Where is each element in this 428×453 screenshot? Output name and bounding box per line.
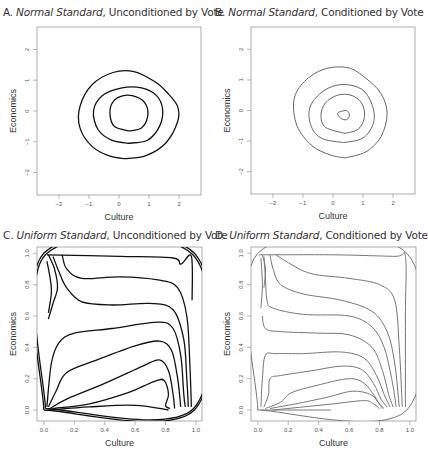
x-tick-label: 0 (117, 201, 121, 207)
y-tick-label: 0.2 (24, 374, 30, 383)
panel-d: 0.00.20.40.60.81.00.00.20.40.60.81.0Cult… (222, 234, 423, 448)
x-tick-label: −1 (86, 201, 94, 207)
x-tick-label: 2 (177, 201, 181, 207)
panel-b: −2−1012−2−1012CultureEconomics (222, 27, 415, 221)
y-tick-label: 2 (238, 47, 244, 51)
contour-line (53, 379, 170, 408)
contour-line (276, 255, 402, 407)
y-tick-label: −1 (238, 137, 244, 145)
x-tick-label: 0.0 (254, 427, 263, 433)
contour-line (259, 252, 406, 407)
panel-c-y-axis-label: Economics (8, 311, 18, 356)
contour-line (53, 256, 188, 407)
panel-b-frame (251, 27, 415, 194)
x-tick-label: 0 (331, 200, 335, 206)
panel-a-y-axis-label: Economics (8, 88, 18, 133)
panel-d-x-axis-label: Culture (319, 438, 348, 448)
x-tick-label: 0.2 (70, 427, 79, 433)
contour-line (337, 110, 349, 119)
y-tick-label: 0 (238, 108, 244, 112)
x-tick-label: 0.6 (345, 427, 354, 433)
x-tick-label: 1 (361, 200, 365, 206)
x-tick-label: 0.8 (161, 427, 170, 433)
y-tick-label: 0.6 (238, 311, 244, 320)
panel-a-x-axis-label: Culture (104, 212, 133, 222)
contour-line (265, 379, 384, 409)
panel-a-contours (78, 71, 179, 159)
y-tick-label: 0.4 (238, 342, 244, 351)
panel-d-y-axis-label: Economics (222, 311, 232, 356)
y-tick-label: 0.6 (24, 311, 30, 320)
x-tick-label: 1.0 (406, 427, 415, 433)
panel-c-x-axis-label: Culture (105, 438, 134, 448)
x-tick-label: −1 (300, 200, 308, 206)
y-tick-label: −2 (238, 168, 244, 176)
y-tick-label: 0.0 (24, 405, 30, 414)
contour-line (47, 261, 52, 313)
y-tick-label: −2 (24, 168, 30, 176)
panel-c: 0.00.20.40.60.81.00.00.20.40.60.81.0Cult… (8, 234, 213, 448)
contour-line (247, 234, 423, 422)
contour-line (110, 95, 148, 131)
x-tick-label: 0.6 (131, 427, 140, 433)
y-tick-label: 0.8 (238, 280, 244, 289)
contour-line (270, 391, 383, 408)
panel-b-x-axis-label: Culture (318, 211, 347, 221)
x-tick-label: −2 (270, 200, 278, 206)
y-tick-label: 1 (24, 78, 30, 82)
x-tick-label: 1 (147, 201, 151, 207)
y-tick-label: 1.0 (24, 248, 30, 257)
contour-line (261, 258, 263, 308)
y-tick-label: 0.4 (24, 342, 30, 351)
x-tick-label: 0.4 (315, 427, 324, 433)
y-tick-label: −1 (24, 138, 30, 146)
contour-line (47, 322, 185, 407)
y-tick-label: 0.8 (24, 280, 30, 289)
panel-d-frame (251, 247, 416, 421)
contour-line (293, 67, 387, 158)
y-tick-label: 0 (24, 109, 30, 113)
contour-line (34, 236, 211, 420)
contour-line (262, 316, 393, 407)
contour-line (33, 234, 214, 422)
contour-line (50, 360, 175, 409)
x-tick-label: 0.0 (40, 427, 49, 433)
panel-b-y-axis-label: Economics (222, 88, 232, 133)
x-tick-label: 0.2 (284, 427, 293, 433)
contour-line (47, 255, 193, 300)
x-tick-label: 1.0 (192, 427, 201, 433)
panel-a-frame (37, 27, 201, 195)
x-tick-label: −2 (56, 201, 64, 207)
panel-a: −2−1012−2−1012CultureEconomics (8, 27, 201, 222)
y-tick-label: 1.0 (238, 248, 244, 257)
y-tick-label: 0.0 (238, 405, 244, 414)
x-tick-label: 2 (391, 200, 395, 206)
panel-d-contours (247, 234, 423, 422)
contour-line (321, 94, 365, 133)
panel-c-contours (33, 234, 214, 422)
y-tick-label: 2 (24, 47, 30, 51)
y-tick-label: 0.2 (238, 374, 244, 383)
y-tick-label: 1 (238, 78, 244, 82)
panel-b-contours (293, 67, 387, 158)
x-tick-label: 0.4 (101, 427, 110, 433)
x-tick-label: 0.8 (375, 427, 384, 433)
